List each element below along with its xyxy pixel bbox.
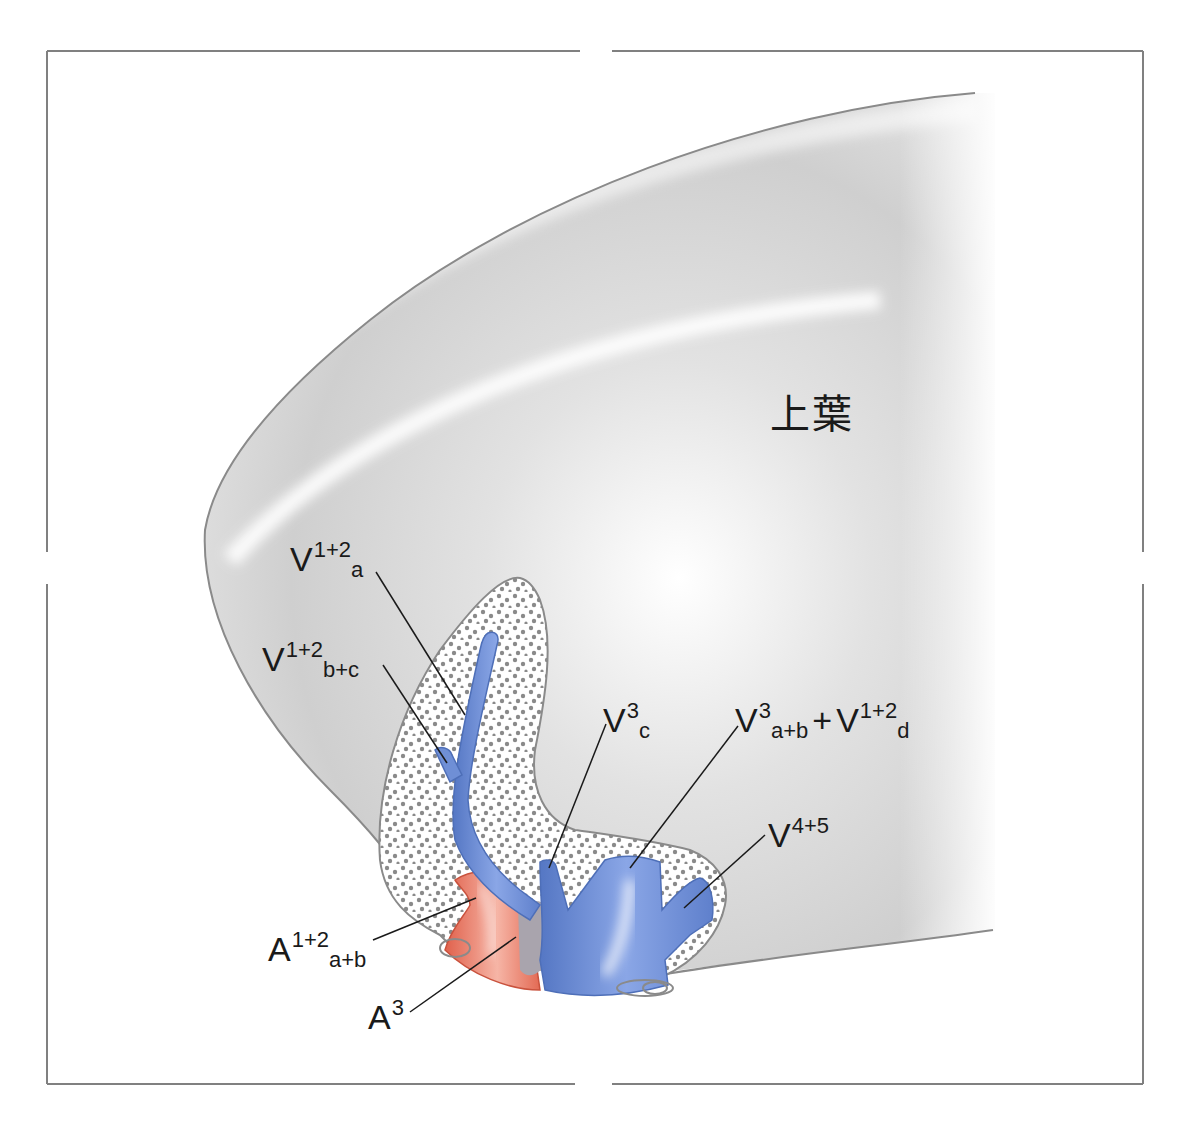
label-v3ab-v12d: V3a+b+V1+2d <box>735 703 909 737</box>
lung-vessel-illustration <box>0 0 1188 1130</box>
label-a3: A3 <box>368 1000 404 1034</box>
label-v45: V4+5 <box>768 818 829 852</box>
upper-lobe-label: 上葉 <box>770 382 854 440</box>
diagram-canvas: 上葉 V1+2a V1+2b+c V3c V3a+b+V1+2d V4+5 A1… <box>0 0 1188 1130</box>
label-v12bc: V1+2b+c <box>262 642 359 676</box>
label-v3c: V3c <box>603 703 650 737</box>
label-v12a: V1+2a <box>290 542 363 576</box>
label-a12ab: A1+2a+b <box>268 932 366 966</box>
